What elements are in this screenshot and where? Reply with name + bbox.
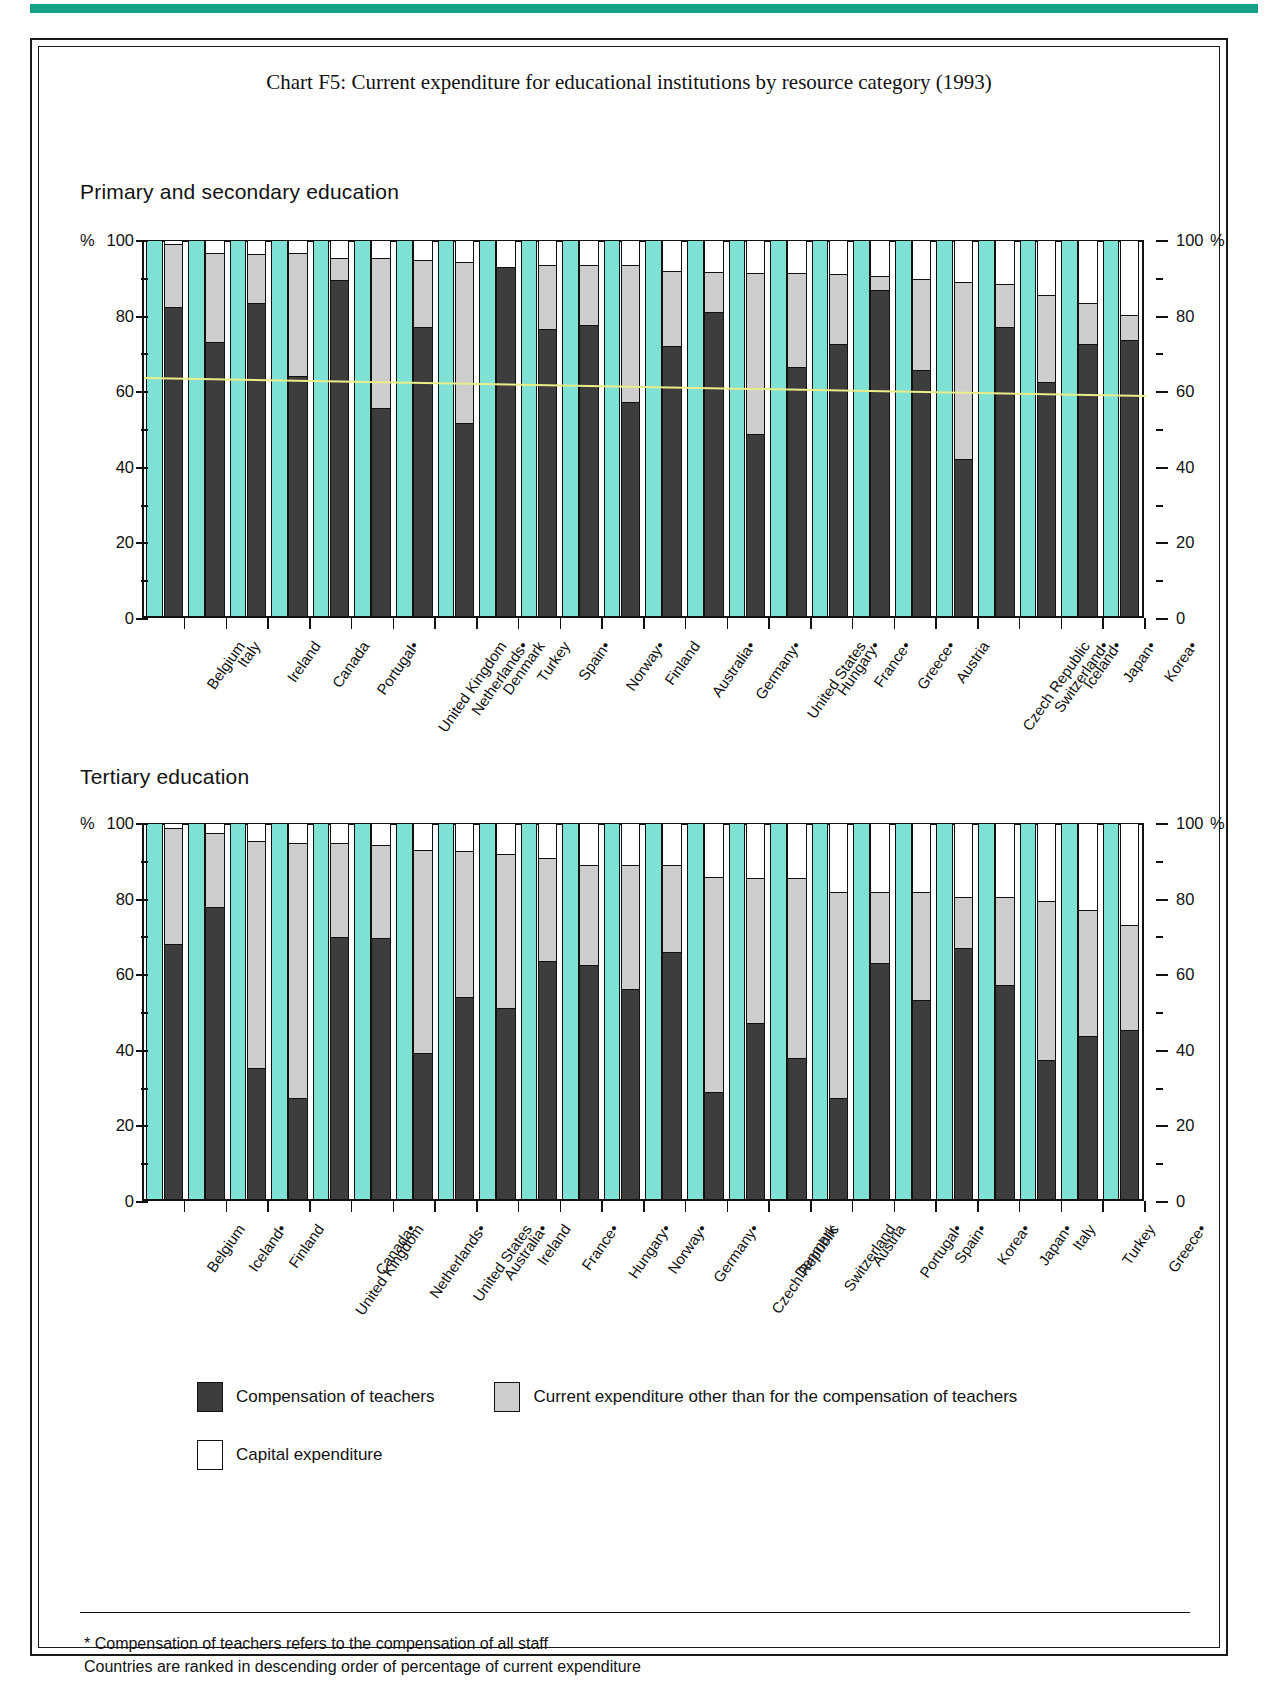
legend-swatch-capital [197,1440,223,1470]
legend-row-1: Compensation of teachers Current expendi… [197,1382,1017,1412]
legend-label-capital: Capital expenditure [236,1445,382,1465]
footnote-line-1: * Compensation of teachers refers to the… [84,1632,641,1655]
footnote-line-2: Countries are ranked in descending order… [84,1655,641,1678]
footnote-divider [80,1612,1190,1613]
legend-item-capital: Capital expenditure [197,1440,382,1470]
legend-swatch-compensation [197,1382,223,1412]
legend-label-compensation: Compensation of teachers [236,1387,434,1407]
legend-item-compensation: Compensation of teachers [197,1382,434,1412]
page-frame: Chart F5: Current expenditure for educat… [30,38,1228,1656]
legend-label-other: Current expenditure other than for the c… [533,1387,1017,1407]
top-rule [30,4,1258,13]
legend-row-2: Capital expenditure [197,1440,382,1470]
chart-legend: Compensation of teachers Current expendi… [32,40,1226,1654]
footnotes: * Compensation of teachers refers to the… [84,1632,641,1678]
legend-item-other: Current expenditure other than for the c… [494,1382,1017,1412]
legend-swatch-other [494,1382,520,1412]
